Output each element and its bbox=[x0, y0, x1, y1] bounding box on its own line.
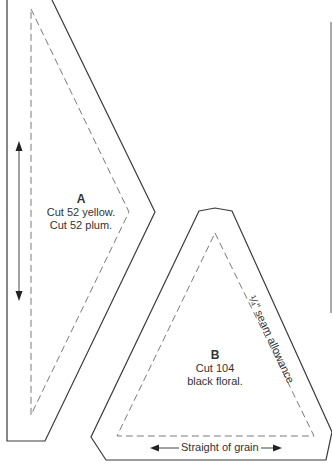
piece-b-instruction-2: black floral. bbox=[180, 375, 250, 388]
grain-label: Straight of grain bbox=[179, 441, 261, 453]
piece-b-letter: B bbox=[180, 349, 250, 362]
piece-a-letter: A bbox=[40, 193, 122, 206]
piece-a-instruction-2: Cut 52 plum. bbox=[40, 219, 122, 232]
piece-a-instruction-1: Cut 52 yellow. bbox=[40, 206, 122, 219]
piece-b-label: B Cut 104 black floral. bbox=[180, 349, 250, 388]
piece-b-cut-line bbox=[91, 208, 332, 460]
piece-b-seam-line bbox=[117, 233, 314, 436]
piece-a-grain-arrow-icon bbox=[16, 141, 23, 301]
piece-b-instruction-1: Cut 104 bbox=[180, 362, 250, 375]
piece-a-label: A Cut 52 yellow. Cut 52 plum. bbox=[40, 193, 122, 232]
template-diagram bbox=[0, 0, 332, 473]
